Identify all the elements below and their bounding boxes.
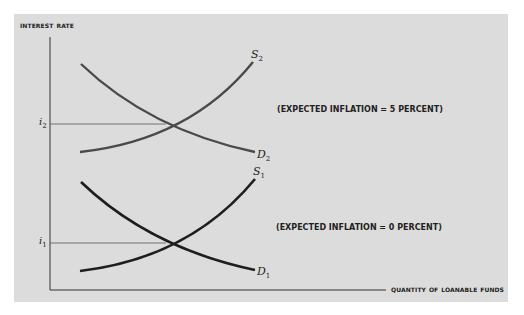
curve-label-d1: D1 — [257, 265, 270, 280]
curve-label-s2-sub: 2 — [259, 55, 263, 63]
demand-curve-d1 — [81, 182, 255, 270]
x-axis-title: Quantity of loanable funds — [391, 285, 504, 294]
curve-label-s2: S2 — [251, 48, 263, 63]
annotation-inflation-0-percent: (EXPECTED INFLATION = 0 PERCENT) — [276, 223, 442, 232]
curve-label-s1-sub: 1 — [261, 172, 265, 180]
curve-label-s1: S1 — [253, 165, 265, 180]
curve-label-d2: D2 — [257, 148, 270, 163]
supply-curve-s2 — [80, 62, 253, 152]
supply-curve-s1 — [80, 179, 255, 271]
demand-curve-d2 — [81, 64, 255, 152]
curve-label-d2-base: D — [257, 148, 266, 161]
curve-label-d2-sub: 2 — [266, 155, 270, 163]
curve-label-s1-base: S — [253, 165, 261, 178]
tick-label-i2: i2 — [39, 116, 47, 130]
tick-label-i2-sub: 2 — [42, 122, 46, 130]
tick-label-i1: i1 — [39, 235, 47, 249]
y-axis-title: Interest rate — [20, 20, 74, 30]
curve-label-s2-base: S — [251, 48, 259, 61]
tick-label-i1-sub: 1 — [42, 241, 46, 249]
curve-label-d1-sub: 1 — [266, 272, 270, 280]
annotation-inflation-5-percent: (EXPECTED INFLATION = 5 PERCENT) — [277, 105, 443, 114]
curve-label-d1-base: D — [257, 265, 266, 278]
